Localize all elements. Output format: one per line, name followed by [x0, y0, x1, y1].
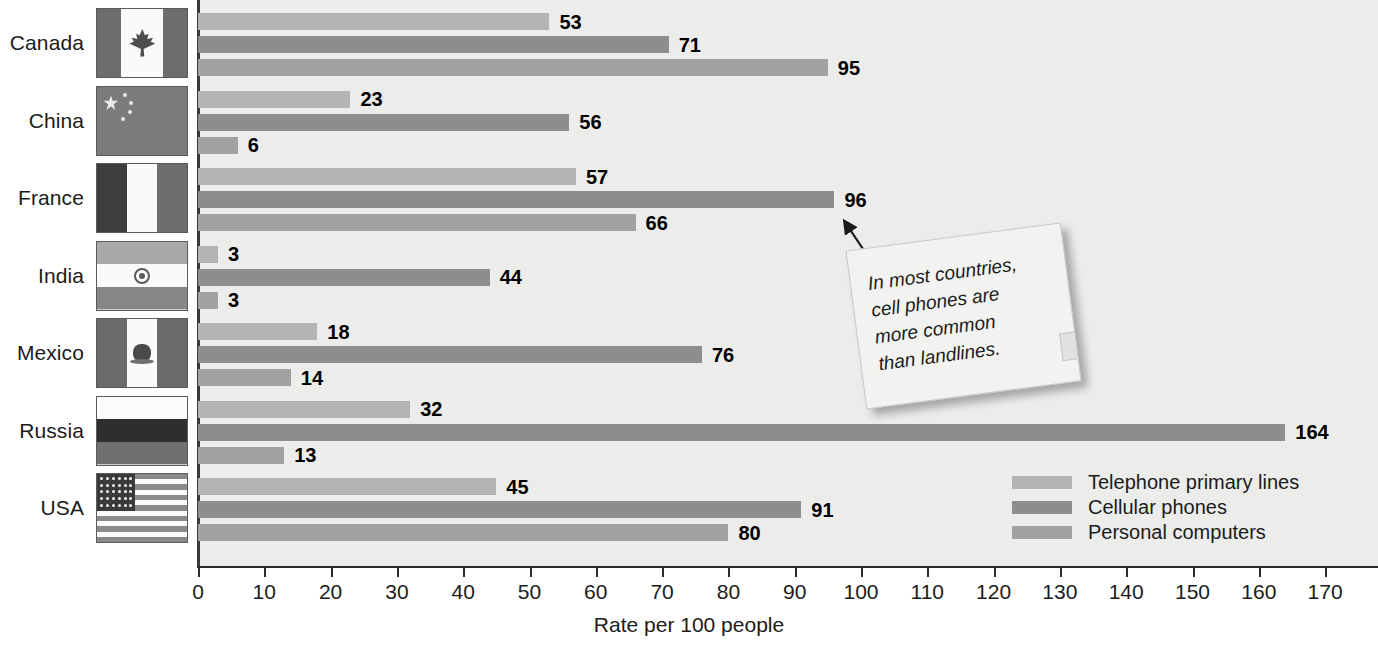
legend-label: Telephone primary lines [1088, 471, 1299, 494]
flag-france-icon [96, 163, 188, 233]
x-tick-label: 110 [911, 580, 944, 604]
bar [198, 114, 569, 131]
bar [198, 447, 284, 464]
bar [198, 91, 350, 108]
bar-value-label: 45 [506, 475, 528, 498]
x-tick [1193, 566, 1195, 577]
bar [198, 246, 218, 263]
x-tick [331, 566, 333, 577]
legend: Telephone primary linesCellular phonesPe… [1012, 470, 1299, 545]
bar-value-label: 3 [228, 289, 239, 312]
category-row: India [0, 237, 192, 315]
bar-value-label: 53 [559, 10, 581, 33]
x-tick-label: 90 [783, 580, 806, 604]
bar [198, 137, 238, 154]
x-tick [198, 566, 200, 577]
x-tick [1126, 566, 1128, 577]
bar [198, 214, 636, 231]
bar [198, 424, 1285, 441]
x-tick [1325, 566, 1327, 577]
bar [198, 36, 669, 53]
x-tick [530, 566, 532, 577]
bar [198, 269, 490, 286]
x-tick-label: 150 [1175, 580, 1210, 604]
bar-value-label: 164 [1295, 421, 1328, 444]
bar [198, 346, 702, 363]
x-tick-label: 40 [452, 580, 475, 604]
bar-value-label: 71 [679, 33, 701, 56]
bar-value-label: 76 [712, 343, 734, 366]
bar [198, 369, 291, 386]
legend-label: Cellular phones [1088, 496, 1227, 519]
x-tick-label: 70 [650, 580, 673, 604]
legend-item[interactable]: Telephone primary lines [1012, 470, 1299, 495]
bar [198, 323, 317, 340]
category-row: Canada [0, 4, 192, 82]
x-tick [1060, 566, 1062, 577]
legend-swatch [1012, 476, 1072, 489]
x-tick-label: 170 [1308, 580, 1343, 604]
legend-item[interactable]: Personal computers [1012, 520, 1299, 545]
bar [198, 168, 576, 185]
category-label: China [29, 109, 84, 133]
x-tick-label: 160 [1241, 580, 1276, 604]
flag-india-icon [96, 241, 188, 311]
x-tick-label: 30 [385, 580, 408, 604]
x-tick-label: 50 [518, 580, 541, 604]
bar [198, 191, 834, 208]
bar-value-label: 66 [646, 211, 668, 234]
bar [198, 501, 801, 518]
bar-value-label: 13 [294, 444, 316, 467]
flag-mexico-icon [96, 318, 188, 388]
category-label: Russia [19, 419, 84, 443]
bar-value-label: 3 [228, 243, 239, 266]
x-tick [662, 566, 664, 577]
bar-value-label: 57 [586, 165, 608, 188]
x-tick [264, 566, 266, 577]
x-axis-title: Rate per 100 people [0, 613, 1378, 637]
chart-canvas: CanadaChinaFranceIndiaMexicoRussiaUSA 53… [0, 0, 1378, 651]
category-row: China [0, 82, 192, 160]
x-tick-label: 60 [584, 580, 607, 604]
category-row: Russia [0, 392, 192, 470]
flag-usa-icon [96, 473, 188, 543]
flag-china-icon [96, 86, 188, 156]
category-row: France [0, 159, 192, 237]
legend-swatch [1012, 501, 1072, 514]
legend-label: Personal computers [1088, 521, 1266, 544]
x-tick [994, 566, 996, 577]
category-label: USA [41, 496, 84, 520]
x-tick-label: 100 [843, 580, 878, 604]
bar [198, 524, 728, 541]
x-tick-label: 130 [1042, 580, 1077, 604]
x-tick-label: 20 [319, 580, 342, 604]
bar-value-label: 14 [301, 366, 323, 389]
x-tick [728, 566, 730, 577]
legend-item[interactable]: Cellular phones [1012, 495, 1299, 520]
x-tick-label: 10 [253, 580, 276, 604]
bar [198, 292, 218, 309]
callout-note: In most countries,cell phones aremore co… [845, 223, 1079, 410]
bar [198, 59, 828, 76]
category-label: Mexico [17, 341, 84, 365]
x-axis-line [197, 566, 1378, 568]
bar [198, 478, 496, 495]
x-tick-label: 0 [192, 580, 204, 604]
bar-value-label: 56 [579, 111, 601, 134]
x-tick [596, 566, 598, 577]
bar [198, 401, 410, 418]
category-row: USA [0, 469, 192, 547]
x-tick [1259, 566, 1261, 577]
bar-value-label: 91 [811, 498, 833, 521]
bar [198, 13, 549, 30]
category-label: Canada [10, 31, 84, 55]
bar-value-label: 80 [738, 521, 760, 544]
category-label: India [38, 264, 84, 288]
x-tick [861, 566, 863, 577]
bar-value-label: 23 [360, 88, 382, 111]
flag-canada-icon [96, 8, 188, 78]
x-tick [397, 566, 399, 577]
category-row: Mexico [0, 314, 192, 392]
legend-swatch [1012, 526, 1072, 539]
bar-value-label: 96 [844, 188, 866, 211]
